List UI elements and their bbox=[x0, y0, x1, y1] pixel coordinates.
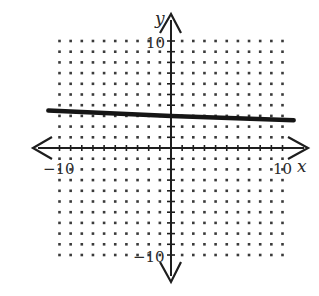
grid-dot bbox=[181, 50, 184, 53]
grid-dot bbox=[114, 243, 117, 246]
grid-dot bbox=[192, 50, 195, 53]
grid-dot bbox=[69, 211, 72, 214]
grid-dot bbox=[281, 211, 284, 214]
grid-dot bbox=[237, 93, 240, 96]
grid-dot bbox=[58, 40, 61, 43]
grid-dot bbox=[103, 125, 106, 128]
grid-dot bbox=[248, 222, 251, 225]
grid-dot bbox=[58, 232, 61, 235]
grid-dot bbox=[58, 104, 61, 107]
grid-dot bbox=[81, 232, 84, 235]
grid-dot bbox=[192, 157, 195, 160]
grid-dot bbox=[136, 40, 139, 43]
grid-dot bbox=[69, 200, 72, 203]
grid-dot bbox=[114, 61, 117, 64]
grid-dot bbox=[214, 83, 217, 86]
grid-dot bbox=[125, 61, 128, 64]
grid-dot bbox=[125, 243, 128, 246]
grid-dot bbox=[81, 61, 84, 64]
grid-dot bbox=[181, 104, 184, 107]
grid-dot bbox=[103, 93, 106, 96]
grid-dot bbox=[259, 72, 262, 75]
grid-dot bbox=[270, 254, 273, 257]
grid-dot bbox=[69, 83, 72, 86]
grid-dot bbox=[136, 136, 139, 139]
grid-dot bbox=[181, 136, 184, 139]
grid-dot bbox=[203, 243, 206, 246]
x-min-tick-label: −10 bbox=[43, 160, 75, 178]
grid-dot bbox=[159, 179, 162, 182]
grid-dot bbox=[248, 104, 251, 107]
grid-dot bbox=[203, 83, 206, 86]
grid-dot bbox=[136, 50, 139, 53]
grid-dot bbox=[136, 168, 139, 171]
y-max-tick-label: 10 bbox=[146, 34, 165, 52]
grid-dot bbox=[69, 232, 72, 235]
grid-dot bbox=[92, 50, 95, 53]
grid-dot bbox=[125, 104, 128, 107]
grid-dot bbox=[159, 104, 162, 107]
grid-dot bbox=[69, 72, 72, 75]
grid-dot bbox=[259, 157, 262, 160]
grid-dot bbox=[103, 222, 106, 225]
grid-dot bbox=[281, 93, 284, 96]
grid-dot bbox=[214, 168, 217, 171]
grid-dot bbox=[92, 190, 95, 193]
grid-dot bbox=[192, 125, 195, 128]
grid-dot bbox=[237, 222, 240, 225]
grid-dot bbox=[248, 190, 251, 193]
grid-dot bbox=[270, 61, 273, 64]
grid-dot bbox=[136, 222, 139, 225]
grid-dot bbox=[69, 222, 72, 225]
grid-dot bbox=[81, 104, 84, 107]
grid-dot bbox=[92, 93, 95, 96]
grid-dot bbox=[114, 104, 117, 107]
grid-dot bbox=[203, 72, 206, 75]
grid-dot bbox=[136, 157, 139, 160]
grid-dot bbox=[81, 40, 84, 43]
grid-dot bbox=[203, 40, 206, 43]
grid-dot bbox=[259, 243, 262, 246]
grid-dot bbox=[259, 61, 262, 64]
grid-dot bbox=[237, 243, 240, 246]
grid-dot bbox=[58, 211, 61, 214]
grid-dot bbox=[214, 40, 217, 43]
grid-dot bbox=[270, 232, 273, 235]
grid-dot bbox=[136, 243, 139, 246]
grid-dot bbox=[259, 125, 262, 128]
grid-dot bbox=[203, 157, 206, 160]
grid-dot bbox=[92, 157, 95, 160]
grid-dot bbox=[114, 125, 117, 128]
grid-dot bbox=[92, 83, 95, 86]
grid-dot bbox=[58, 125, 61, 128]
grid-dot bbox=[259, 104, 262, 107]
axes bbox=[33, 14, 308, 282]
grid-dot bbox=[181, 190, 184, 193]
grid-dot bbox=[92, 168, 95, 171]
y-axis-label: y bbox=[154, 8, 165, 28]
grid-dot bbox=[248, 243, 251, 246]
grid-dot bbox=[237, 200, 240, 203]
grid-dot bbox=[103, 61, 106, 64]
grid-dot bbox=[69, 190, 72, 193]
x-max-tick-label: 10 bbox=[273, 160, 292, 178]
grid-dot bbox=[147, 168, 150, 171]
grid-dot bbox=[203, 190, 206, 193]
grid-dot bbox=[248, 211, 251, 214]
grid-dot bbox=[214, 222, 217, 225]
grid-dot bbox=[181, 157, 184, 160]
grid-dot bbox=[192, 61, 195, 64]
grid-dot bbox=[181, 40, 184, 43]
grid-dot bbox=[203, 200, 206, 203]
grid-dot bbox=[225, 50, 228, 53]
grid-dot bbox=[147, 61, 150, 64]
grid-dot bbox=[136, 200, 139, 203]
grid-dot bbox=[248, 200, 251, 203]
grid-dot bbox=[81, 168, 84, 171]
grid-dot bbox=[281, 125, 284, 128]
grid-dot bbox=[248, 136, 251, 139]
grid-dot bbox=[214, 136, 217, 139]
grid-dot bbox=[147, 200, 150, 203]
grid-dot bbox=[58, 72, 61, 75]
grid-dot bbox=[225, 179, 228, 182]
